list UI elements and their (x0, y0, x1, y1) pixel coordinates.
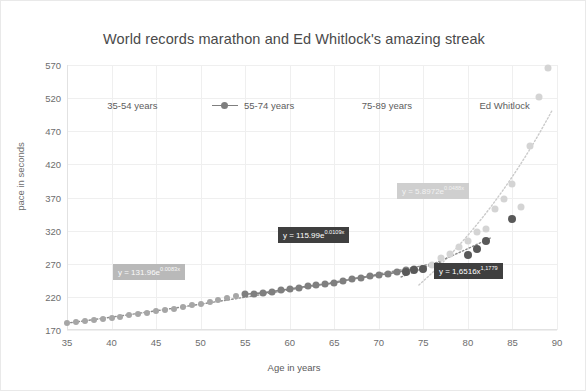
legend-line-marker-icon (212, 102, 238, 109)
data-point (135, 311, 141, 317)
data-point (242, 291, 249, 298)
equation-exponent: 1,1779 (481, 265, 498, 271)
data-point (233, 293, 239, 299)
legend-label: 55-74 years (244, 100, 294, 111)
data-point (508, 215, 516, 223)
legend-label: 35-54 years (107, 100, 157, 111)
data-point (518, 204, 525, 211)
data-point (473, 228, 480, 235)
legend-item-ed-whitlock[interactable]: Ed Whitlock (467, 100, 530, 111)
x-tick-label: 90 (537, 337, 577, 348)
equation-base: y = 131.96e (118, 268, 160, 277)
data-point (295, 284, 302, 291)
data-point (393, 269, 400, 276)
data-point (189, 302, 195, 308)
data-point (464, 251, 472, 259)
data-point (251, 290, 258, 297)
data-point (180, 304, 186, 310)
chart-container: World records marathon and Ed Whitlock's… (0, 0, 586, 391)
data-point (322, 281, 329, 288)
data-point (366, 273, 373, 280)
data-point (162, 307, 168, 313)
equation-exponent: 0.0488x (444, 185, 464, 191)
x-tick-label: 75 (403, 337, 443, 348)
data-point (224, 295, 230, 301)
data-point (277, 287, 284, 294)
data-point (100, 316, 106, 322)
y-tick-label: 570 (23, 60, 61, 71)
x-tick-label: 35 (47, 337, 87, 348)
gridline-vertical (557, 65, 558, 330)
x-tick-label: 60 (270, 337, 310, 348)
x-tick-label: 40 (92, 337, 132, 348)
data-point (73, 319, 79, 325)
data-point (126, 312, 132, 318)
data-point (438, 255, 445, 262)
x-tick-label: 80 (448, 337, 488, 348)
legend-marker-icon (467, 102, 474, 109)
data-point (331, 279, 338, 286)
data-point (260, 289, 267, 296)
data-point (286, 285, 293, 292)
data-point (144, 310, 150, 316)
data-point (349, 275, 356, 282)
data-point (109, 315, 115, 321)
chart-legend: 35-54 years 55-74 years 75-89 years Ed W… (67, 96, 557, 114)
legend-marker-icon (94, 102, 101, 109)
equation-exponent: 0.0083x (160, 266, 180, 272)
data-point (171, 306, 177, 312)
x-tick-label: 50 (181, 337, 221, 348)
x-tick-label: 70 (359, 337, 399, 348)
data-point (215, 297, 221, 303)
data-point (402, 268, 410, 276)
legend-label: 75-89 years (362, 100, 412, 111)
data-point (456, 243, 463, 250)
data-point (207, 299, 213, 305)
trendline-equation-75-89: y = 5.8972e0.0488x (397, 183, 469, 199)
equation-base: y = 5.8972e (402, 187, 444, 196)
data-point (545, 65, 552, 72)
data-point (509, 181, 516, 188)
x-axis-title: Age in years (1, 362, 586, 373)
trendline-equation-55-74: y = 115.99e0.0109x (278, 227, 349, 243)
data-point (464, 237, 471, 244)
legend-item-75-89-years[interactable]: 75-89 years (349, 100, 412, 111)
data-point (198, 301, 204, 307)
data-point (358, 274, 365, 281)
legend-item-35-54-years[interactable]: 35-54 years (94, 100, 157, 111)
data-point (82, 318, 88, 324)
legend-item-55-74-years[interactable]: 55-74 years (212, 100, 294, 111)
legend-label: Ed Whitlock (480, 100, 530, 111)
data-point (473, 245, 481, 253)
data-point (384, 270, 391, 277)
y-tick-label: 320 (23, 225, 61, 236)
data-point (491, 206, 498, 213)
equation-exponent: 0.0109x (324, 229, 344, 235)
y-tick-label: 170 (23, 325, 61, 336)
y-tick-label: 220 (23, 291, 61, 302)
data-point (447, 251, 454, 258)
trendline-equation-35-54: y = 131.96e0.0083x (113, 264, 185, 280)
y-tick-label: 420 (23, 159, 61, 170)
data-point (340, 277, 347, 284)
data-point (268, 288, 275, 295)
data-point (64, 320, 70, 326)
y-tick-label: 470 (23, 126, 61, 137)
data-point (304, 283, 311, 290)
equation-base: y = 115.99e (283, 231, 324, 240)
data-point (482, 226, 489, 233)
data-point (500, 195, 507, 202)
trendline-equation-ed-whitlock: y = 1,6516x1,1779 (434, 263, 503, 279)
y-tick-label: 270 (23, 258, 61, 269)
data-point (419, 265, 427, 273)
data-point (91, 317, 97, 323)
equation-base: y = 1,6516x (439, 267, 481, 276)
chart-title: World records marathon and Ed Whitlock's… (1, 31, 586, 47)
gridline-horizontal (67, 330, 557, 331)
x-tick-label: 85 (492, 337, 532, 348)
data-point (153, 308, 159, 314)
data-point (410, 266, 418, 274)
y-tick-label: 520 (23, 93, 61, 104)
data-point (527, 142, 534, 149)
data-point (375, 272, 382, 279)
